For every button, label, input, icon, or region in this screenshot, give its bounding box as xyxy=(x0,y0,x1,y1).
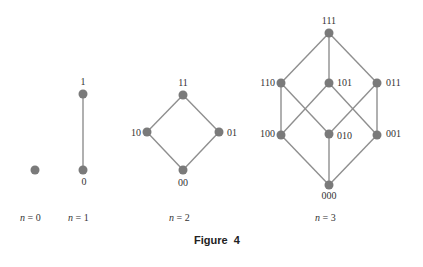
node-label-110: 110 xyxy=(260,77,275,88)
figure-caption: Figure4 xyxy=(194,234,241,246)
node-label-01: 01 xyxy=(227,127,237,138)
panel-label-n3: n = 3 xyxy=(315,212,336,223)
node-label-0: 0 xyxy=(82,176,87,187)
node-011 xyxy=(373,79,382,88)
panel-n3: 111 110 101 011 100 010 001 000 n = 3 xyxy=(260,15,401,223)
edge xyxy=(147,95,183,132)
panel-n2: 11 10 01 00 n = 2 xyxy=(131,77,237,223)
node-1 xyxy=(79,90,88,99)
node-label-010: 010 xyxy=(337,130,352,141)
node-label-011: 011 xyxy=(386,77,401,88)
node-01 xyxy=(215,128,224,137)
edge xyxy=(183,132,219,170)
edge xyxy=(329,33,377,83)
node-label-100: 100 xyxy=(260,128,275,139)
node xyxy=(31,166,40,175)
node-001 xyxy=(373,131,382,140)
node-label-10: 10 xyxy=(131,127,141,138)
node-label-11: 11 xyxy=(178,77,188,88)
edge xyxy=(147,132,183,170)
node-101 xyxy=(325,79,334,88)
edge xyxy=(281,135,329,185)
node-010 xyxy=(325,130,334,139)
panel-label-n1: n = 1 xyxy=(68,212,89,223)
node-label-111: 111 xyxy=(322,15,336,26)
node-label-00: 00 xyxy=(178,177,188,188)
node-0 xyxy=(79,166,88,175)
node-label-001: 001 xyxy=(386,128,401,139)
node-label-101: 101 xyxy=(337,77,352,88)
panel-n0: n = 0 xyxy=(20,166,41,224)
edge xyxy=(281,33,329,83)
node-100 xyxy=(277,131,286,140)
panel-n1: 1 0 n = 1 xyxy=(68,76,89,223)
panel-label-n2: n = 2 xyxy=(169,212,190,223)
node-10 xyxy=(143,128,152,137)
node-11 xyxy=(179,91,188,100)
node-000 xyxy=(325,181,334,190)
edge xyxy=(183,95,219,132)
edge xyxy=(329,135,377,185)
node-label-000: 000 xyxy=(322,190,337,201)
hypercube-lattice-figure: n = 0 1 0 n = 1 11 10 01 00 n = 2 xyxy=(0,0,423,267)
node-label-1: 1 xyxy=(81,76,86,87)
panel-label-n0: n = 0 xyxy=(20,212,41,223)
node-00 xyxy=(179,166,188,175)
node-111 xyxy=(325,29,334,38)
node-110 xyxy=(277,79,286,88)
